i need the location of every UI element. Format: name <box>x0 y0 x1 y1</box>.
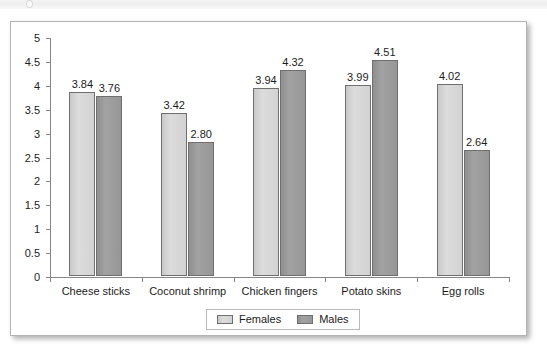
x-axis-category-label: Chicken fingers <box>242 286 318 297</box>
bar-males[interactable]: 4.32 <box>280 70 306 276</box>
bar-females[interactable]: 3.94 <box>253 88 279 276</box>
scan-artifact-strip <box>0 0 547 9</box>
bar-value-label: 3.84 <box>72 79 93 90</box>
y-axis-tick-label: 5 <box>34 33 40 44</box>
bar-value-label: 3.99 <box>347 72 368 83</box>
y-axis-tick-label: 2.5 <box>25 152 40 163</box>
y-axis-tick: 1 <box>46 229 50 230</box>
scan-speck <box>26 0 33 8</box>
legend-swatch-males <box>297 315 313 324</box>
y-axis-tick-label: 1.5 <box>25 200 40 211</box>
y-axis-tick-label: 2 <box>34 176 40 187</box>
bar-group: 3.994.51 <box>345 37 398 276</box>
legend-item-females[interactable]: Females <box>217 314 281 325</box>
x-axis-tick <box>234 277 235 282</box>
y-axis-tick-label: 4.5 <box>25 56 40 67</box>
legend-label: Males <box>319 314 348 325</box>
bar-group: 3.944.32 <box>253 37 306 276</box>
bar-group: 3.422.80 <box>161 37 214 276</box>
y-axis-tick-label: 4 <box>34 80 40 91</box>
bar-chart-plot-area: 54.543.532.521.510.50 3.843.763.422.803.… <box>50 38 509 277</box>
bar-females[interactable]: 3.42 <box>161 113 187 276</box>
x-axis-tick <box>417 277 418 282</box>
bar-value-label: 4.32 <box>282 57 303 68</box>
y-axis-tick-label: 1 <box>34 224 40 235</box>
bar-group: 4.022.64 <box>437 37 490 276</box>
y-axis-tick-label: 0.5 <box>25 248 40 259</box>
bar-males[interactable]: 2.80 <box>188 142 214 276</box>
legend-item-males[interactable]: Males <box>297 314 348 325</box>
bar-value-label: 3.76 <box>99 83 120 94</box>
bar-females[interactable]: 4.02 <box>437 84 463 276</box>
y-axis-tick: 4.5 <box>46 62 50 63</box>
bar-value-label: 4.51 <box>374 47 395 58</box>
bar-males[interactable]: 2.64 <box>464 150 490 276</box>
x-axis-category-label: Egg rolls <box>442 286 485 297</box>
y-axis-tick: 2 <box>46 181 50 182</box>
y-axis-tick: 3 <box>46 134 50 135</box>
bar-value-label: 3.94 <box>255 75 276 86</box>
y-axis-tick-label: 0 <box>34 272 40 283</box>
bar-value-label: 4.02 <box>439 71 460 82</box>
y-axis-tick: 1.5 <box>46 205 50 206</box>
bar-males[interactable]: 3.76 <box>96 96 122 276</box>
x-axis-tick <box>142 277 143 282</box>
y-axis-tick-label: 3.5 <box>25 104 40 115</box>
x-axis-category-label: Potato skins <box>341 286 401 297</box>
y-axis-tick: 4 <box>46 86 50 87</box>
y-axis-tick: 2.5 <box>46 158 50 159</box>
x-axis-category-label: Cheese sticks <box>62 286 130 297</box>
chart-legend: FemalesMales <box>206 309 360 330</box>
legend-label: Females <box>239 314 281 325</box>
bar-value-label: 2.80 <box>190 129 211 140</box>
x-axis-category-label: Coconut shrimp <box>149 286 226 297</box>
bar-value-label: 3.42 <box>163 100 184 111</box>
legend-swatch-females <box>217 315 233 324</box>
x-axis-tick <box>325 277 326 282</box>
bar-males[interactable]: 4.51 <box>372 60 398 276</box>
x-axis-tick <box>50 277 51 282</box>
bar-group: 3.843.76 <box>69 37 122 276</box>
bar-females[interactable]: 3.99 <box>345 85 371 276</box>
y-axis-tick-label: 3 <box>34 128 40 139</box>
x-axis-line <box>50 277 509 278</box>
bar-value-label: 2.64 <box>466 137 487 148</box>
bar-females[interactable]: 3.84 <box>69 92 95 276</box>
y-axis-line <box>50 38 51 278</box>
y-axis-tick: 5 <box>46 38 50 39</box>
chart-figure-frame: 54.543.532.521.510.50 3.843.763.422.803.… <box>10 21 527 336</box>
y-axis-tick: 0.5 <box>46 253 50 254</box>
y-axis-tick: 3.5 <box>46 110 50 111</box>
x-axis-tick <box>509 277 510 282</box>
